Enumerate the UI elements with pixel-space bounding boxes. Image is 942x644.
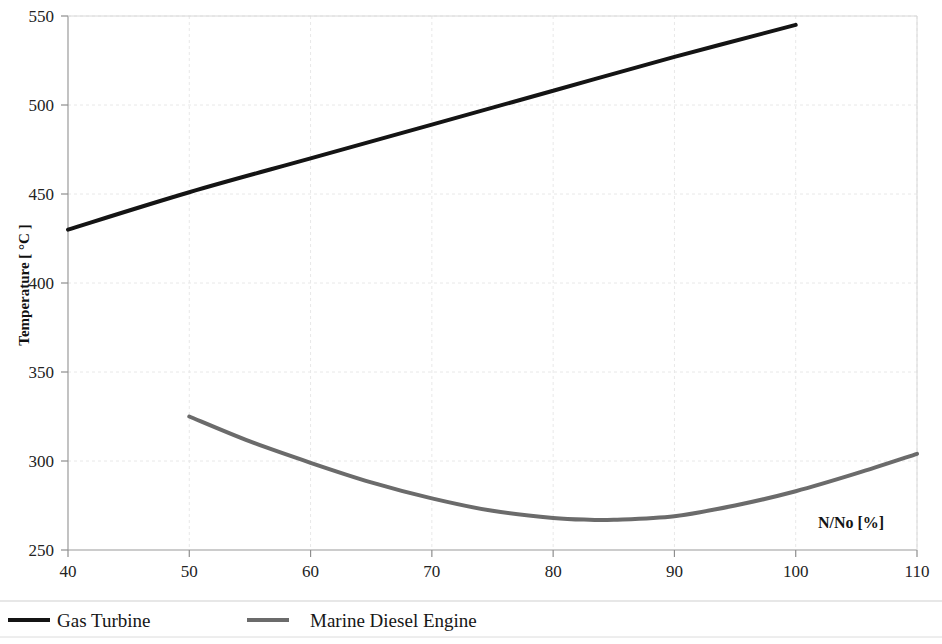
- x-tick-label: 80: [545, 562, 562, 581]
- chart-legend: Gas TurbineMarine Diesel Engine: [8, 610, 477, 631]
- y-tick-label: 450: [29, 185, 55, 204]
- x-tick-label: 100: [783, 562, 809, 581]
- x-tick-label: 90: [666, 562, 683, 581]
- y-axis-title: Temperature [ °C ]: [16, 224, 32, 345]
- legend-item[interactable]: Gas Turbine: [8, 610, 150, 631]
- y-tick-label: 550: [29, 7, 55, 26]
- y-axis-tick-labels: 250300350400450500550: [29, 7, 55, 560]
- x-axis-ticks: [68, 550, 917, 557]
- legend-label: Marine Diesel Engine: [310, 610, 477, 631]
- x-tick-label: 60: [302, 562, 319, 581]
- x-axis-annotation: N/No [%]: [818, 514, 884, 531]
- y-tick-label: 400: [29, 274, 55, 293]
- y-tick-label: 250: [29, 541, 55, 560]
- x-tick-label: 110: [905, 562, 930, 581]
- chart-figure: 250300350400450500550 405060708090100110…: [0, 0, 942, 644]
- x-axis-tick-labels: 405060708090100110: [60, 562, 930, 581]
- y-axis-ticks: [61, 16, 68, 550]
- x-tick-label: 50: [181, 562, 198, 581]
- legend-item[interactable]: Marine Diesel Engine: [247, 610, 477, 631]
- y-tick-label: 300: [29, 452, 55, 471]
- y-tick-label: 350: [29, 363, 55, 382]
- line-chart-canvas: 250300350400450500550 405060708090100110…: [0, 0, 942, 644]
- y-tick-label: 500: [29, 96, 55, 115]
- legend-label: Gas Turbine: [57, 610, 150, 631]
- x-tick-label: 70: [423, 562, 440, 581]
- x-tick-label: 40: [60, 562, 77, 581]
